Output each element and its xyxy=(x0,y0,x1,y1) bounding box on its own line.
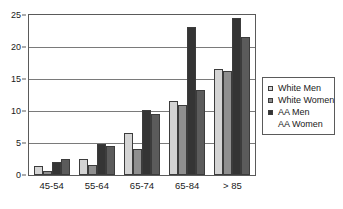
bar xyxy=(223,71,232,175)
y-axis-tick-label: 10 xyxy=(11,107,21,116)
bar xyxy=(88,165,97,175)
bars-layer xyxy=(29,15,255,175)
x-axis-tick-label: 55-64 xyxy=(85,180,109,191)
legend-swatch-icon xyxy=(268,122,273,127)
bar xyxy=(151,114,160,175)
legend-item[interactable]: AA Men xyxy=(266,106,331,118)
x-axis-tick-label: 65-74 xyxy=(130,180,154,191)
y-axis-tick-mark xyxy=(22,15,26,16)
bar-chart: 0510152025 45-5455-6465-7465-84> 85 Whit… xyxy=(0,0,343,209)
legend-swatch-icon xyxy=(268,98,273,103)
bar xyxy=(214,69,223,175)
legend-item-label: White Women xyxy=(278,95,334,105)
legend-item-label: White Men xyxy=(278,83,321,93)
chart-legend: White MenWhite WomenAA MenAA Women xyxy=(262,77,335,135)
legend-swatch-icon xyxy=(268,86,273,91)
bar xyxy=(187,27,196,175)
x-axis-tick-label: 45-54 xyxy=(39,180,63,191)
bar xyxy=(169,101,178,175)
y-axis-tick-label: 15 xyxy=(11,75,21,84)
bar-group xyxy=(74,15,119,175)
y-axis-tick-label: 5 xyxy=(16,139,21,148)
bar xyxy=(133,149,142,175)
bar xyxy=(34,166,43,175)
bar-group xyxy=(210,15,255,175)
bar-group xyxy=(119,15,164,175)
y-axis-tick-mark xyxy=(22,79,26,80)
bar xyxy=(79,159,88,175)
y-axis-tick-mark xyxy=(22,111,26,112)
bar xyxy=(124,133,133,175)
legend-item[interactable]: White Women xyxy=(266,94,331,106)
bar xyxy=(97,144,106,175)
bar xyxy=(52,162,61,175)
bar-group xyxy=(165,15,210,175)
y-axis: 0510152025 xyxy=(0,14,26,176)
y-axis-tick-mark xyxy=(22,143,26,144)
bar-group xyxy=(29,15,74,175)
y-axis-tick-mark xyxy=(22,47,26,48)
bar xyxy=(241,37,250,175)
y-axis-tick-label: 20 xyxy=(11,43,21,52)
legend-swatch-icon xyxy=(268,110,273,115)
legend-item-label: AA Men xyxy=(278,107,310,117)
bar xyxy=(61,159,70,175)
legend-item-label: AA Women xyxy=(278,119,323,129)
x-axis: 45-5455-6465-7465-84> 85 xyxy=(29,180,255,196)
bar xyxy=(178,105,187,175)
x-axis-tick-label: > 85 xyxy=(223,180,242,191)
y-axis-tick-label: 25 xyxy=(11,11,21,20)
y-axis-tick-mark xyxy=(22,175,26,176)
bar xyxy=(106,146,115,175)
y-axis-tick-label: 0 xyxy=(16,171,21,180)
bar xyxy=(196,90,205,175)
x-axis-tick-label: 65-84 xyxy=(175,180,199,191)
bar xyxy=(43,171,52,175)
bar xyxy=(142,110,151,175)
legend-item[interactable]: AA Women xyxy=(266,118,331,130)
legend-item[interactable]: White Men xyxy=(266,82,331,94)
bar xyxy=(232,18,241,175)
